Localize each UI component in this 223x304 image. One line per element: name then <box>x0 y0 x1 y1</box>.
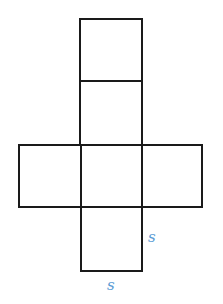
cube-net-diagram: s s <box>0 0 223 304</box>
square-bottom <box>81 207 142 271</box>
square-top <box>80 19 142 81</box>
square-center <box>81 145 142 207</box>
square-left <box>19 145 81 207</box>
side-label-bottom: s <box>107 276 115 294</box>
square-right <box>142 145 202 207</box>
side-label-right: s <box>148 228 156 246</box>
square-upper-middle <box>80 81 142 145</box>
